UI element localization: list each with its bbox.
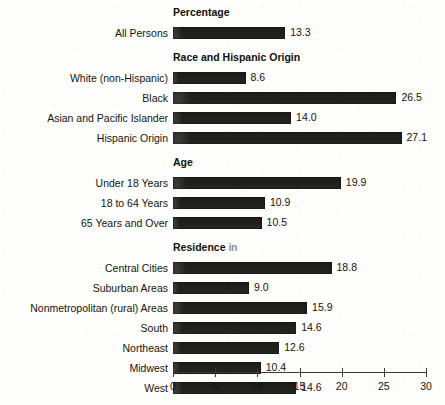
section-heading: Race and Hispanic Origin (173, 51, 300, 64)
bar-value-label: 10.5 (267, 216, 287, 229)
bar (173, 92, 396, 104)
axis-tick (173, 368, 174, 377)
category-label: Asian and Pacific Islander (0, 112, 168, 125)
bar (173, 112, 291, 124)
chart-row: Northeast12.6 (0, 341, 445, 357)
bar-container (173, 177, 341, 189)
bar (173, 262, 332, 274)
chart-row: Nonmetropolitan (rural) Areas15.9 (0, 301, 445, 317)
axis-tick (342, 368, 343, 377)
bar-value-label: 14.6 (301, 321, 321, 334)
bar-container (173, 132, 402, 144)
axis-tick-label: 5 (212, 380, 218, 393)
section-heading: Age (173, 156, 193, 169)
axis-tick-label: 10 (251, 380, 263, 393)
bar-value-label: 14.0 (296, 111, 316, 124)
axis-tick-label: 30 (420, 380, 432, 393)
bar (173, 342, 279, 354)
axis-tick-label: 20 (336, 380, 348, 393)
category-label: Under 18 Years (0, 177, 168, 190)
category-label: Black (0, 92, 168, 105)
section-heading: Residence in (173, 241, 237, 254)
bar (173, 177, 341, 189)
bar-container (173, 217, 262, 229)
axis-tick (300, 368, 301, 377)
bar-container (173, 112, 291, 124)
chart-row: Hispanic Origin27.1 (0, 131, 445, 147)
category-label: 18 to 64 Years (0, 197, 168, 210)
axis-tick (426, 368, 427, 377)
category-label: South (0, 322, 168, 335)
bar-value-label: 12.6 (284, 341, 304, 354)
section-heading-faded-text: in (228, 241, 237, 253)
bar-container (173, 92, 396, 104)
bar-value-label: 15.9 (312, 301, 332, 314)
bar (173, 322, 296, 334)
bar (173, 282, 249, 294)
chart-row: Asian and Pacific Islander14.0 (0, 111, 445, 127)
bar-value-label: 9.0 (254, 281, 269, 294)
x-axis: 051015202530 (173, 372, 426, 402)
category-label: Suburban Areas (0, 282, 168, 295)
category-label: Northeast (0, 342, 168, 355)
bar-value-label: 27.1 (407, 131, 427, 144)
bar-container (173, 262, 332, 274)
chart-row: White (non-Hispanic)8.6 (0, 71, 445, 87)
section-heading-text: Residence (173, 241, 228, 253)
bar-container (173, 302, 307, 314)
bar (173, 302, 307, 314)
bar (173, 197, 265, 209)
category-label: Hispanic Origin (0, 132, 168, 145)
bar-container (173, 27, 285, 39)
chart-row: Under 18 Years19.9 (0, 176, 445, 192)
axis-tick (257, 368, 258, 377)
axis-tick-label: 0 (170, 380, 176, 393)
chart-row: Black26.5 (0, 91, 445, 107)
section-heading: Percentage (173, 6, 230, 19)
chart-row: Suburban Areas9.0 (0, 281, 445, 297)
bar-container (173, 282, 249, 294)
chart-row: Central Cities18.8 (0, 261, 445, 277)
bar-value-label: 10.9 (270, 196, 290, 209)
axis-tick (384, 368, 385, 377)
bar-value-label: 18.8 (337, 261, 357, 274)
axis-tick-label: 15 (294, 380, 306, 393)
bar-value-label: 13.3 (290, 26, 310, 39)
category-label: 65 Years and Over (0, 217, 168, 230)
category-label: Nonmetropolitan (rural) Areas (0, 302, 168, 315)
chart-row: 65 Years and Over10.5 (0, 216, 445, 232)
bar-value-label: 19.9 (346, 176, 366, 189)
bar (173, 72, 246, 84)
bar-container (173, 322, 296, 334)
bar-chart: PercentageAll Persons13.3Race and Hispan… (0, 0, 445, 405)
bar-container (173, 197, 265, 209)
bar (173, 217, 262, 229)
bar (173, 132, 402, 144)
chart-row: All Persons13.3 (0, 26, 445, 42)
axis-tick (215, 368, 216, 377)
chart-row: 18 to 64 Years10.9 (0, 196, 445, 212)
category-label: White (non-Hispanic) (0, 72, 168, 85)
bar-container (173, 342, 279, 354)
category-label: All Persons (0, 27, 168, 40)
category-label: Midwest (0, 362, 168, 375)
bar (173, 27, 285, 39)
axis-tick-label: 25 (378, 380, 390, 393)
category-label: West (0, 382, 168, 395)
chart-row: South14.6 (0, 321, 445, 337)
bar-value-label: 8.6 (251, 71, 266, 84)
category-label: Central Cities (0, 262, 168, 275)
bar-value-label: 26.5 (401, 91, 421, 104)
bar-container (173, 72, 246, 84)
